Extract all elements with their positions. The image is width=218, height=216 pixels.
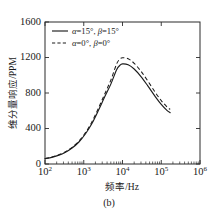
x-tick-label-1e4: 104: [116, 165, 131, 177]
series-group: [45, 58, 170, 159]
x-tick-label-1e3: 103: [77, 165, 92, 177]
x-tick-labels: 102 103 104 105 106: [38, 165, 208, 177]
x-tick-exp-6: 6: [204, 165, 208, 173]
chart-canvas: 0 400 800 1200 1600: [0, 0, 218, 216]
y-axis-ticks: [45, 22, 200, 164]
series-line-alpha0-beta0: [45, 58, 170, 159]
x-tick-label-1e2: 102: [38, 165, 53, 177]
x-tick-label-1e5: 105: [154, 165, 169, 177]
x-tick-exp-4: 4: [126, 165, 130, 173]
x-axis-title: 频率/Hz: [105, 181, 139, 192]
y-tick-label-400: 400: [25, 122, 41, 133]
legend: α=15°, β=15° α=0°, β=0°: [52, 25, 119, 47]
y-tick-labels: 0 400 800 1200 1600: [20, 16, 41, 169]
y-tick-label-1200: 1200: [20, 51, 41, 62]
figure-caption: (b): [103, 197, 115, 209]
plot-frame: [45, 22, 200, 164]
x-tick-exp-3: 3: [87, 165, 91, 173]
series-line-alpha15-beta15: [45, 64, 170, 159]
x-tick-exp-5: 5: [165, 165, 169, 173]
x-tick-exp-2: 2: [49, 165, 53, 173]
x-tick-label-1e6: 106: [193, 165, 208, 177]
legend-label-series-1: α=15°, β=15°: [72, 25, 119, 35]
x-axis-major-ticks: [45, 22, 200, 164]
y-tick-label-1600: 1600: [20, 16, 41, 27]
y-tick-label-800: 800: [25, 87, 41, 98]
figure-panel: 0 400 800 1200 1600: [0, 0, 218, 216]
legend-label-series-2: α=0°, β=0°: [72, 37, 111, 47]
y-axis-title: 维分量响应/PPM: [7, 57, 18, 129]
